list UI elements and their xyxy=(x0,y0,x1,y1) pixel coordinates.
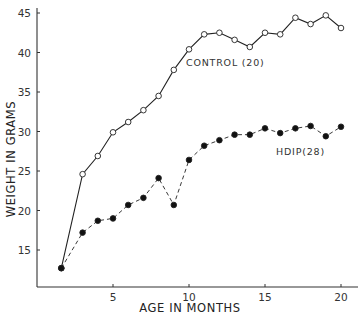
data-point-marker xyxy=(156,175,162,181)
data-point-marker xyxy=(186,47,192,53)
data-point-marker xyxy=(293,126,299,132)
x-tick-label: 20 xyxy=(334,291,347,303)
data-point-marker xyxy=(293,15,299,21)
series-line xyxy=(61,15,341,268)
data-point-marker xyxy=(125,119,131,125)
y-tick-label: 35 xyxy=(18,86,31,98)
data-point-marker xyxy=(141,195,147,201)
y-tick-label: 25 xyxy=(18,165,31,177)
data-point-marker xyxy=(323,13,329,19)
data-point-marker xyxy=(308,123,314,129)
x-axis-title: AGE IN MONTHS xyxy=(139,301,241,315)
data-point-marker xyxy=(262,126,268,132)
x-tick-label: 5 xyxy=(110,291,117,303)
data-point-marker xyxy=(277,130,283,136)
data-point-marker xyxy=(308,21,314,27)
data-point-marker xyxy=(232,132,238,138)
data-point-marker xyxy=(95,218,101,224)
series-layer xyxy=(59,13,344,271)
data-point-marker xyxy=(110,216,116,222)
data-point-marker xyxy=(186,157,192,163)
data-point-marker xyxy=(80,230,86,236)
control-series-label: CONTROL (20) xyxy=(186,57,265,68)
data-point-marker xyxy=(232,37,238,43)
y-axis-title: WEIGHT IN GRAMS xyxy=(4,101,18,217)
y-tick-label: 45 xyxy=(18,7,31,19)
data-point-marker xyxy=(338,25,344,31)
data-point-marker xyxy=(59,265,65,271)
data-point-marker xyxy=(80,171,86,177)
y-tick-label: 40 xyxy=(18,47,31,59)
data-point-marker xyxy=(125,202,131,208)
data-point-marker xyxy=(338,124,344,130)
hdip-series-label: HDIP(28) xyxy=(276,146,325,157)
data-point-marker xyxy=(247,132,253,138)
data-point-marker xyxy=(201,32,207,38)
data-point-marker xyxy=(323,133,329,139)
data-point-marker xyxy=(277,32,283,38)
control-series xyxy=(59,13,344,271)
data-point-marker xyxy=(171,202,177,208)
y-tick-label: 15 xyxy=(18,244,31,256)
data-point-marker xyxy=(217,137,223,143)
y-tick-label: 30 xyxy=(18,126,31,138)
data-point-marker xyxy=(171,67,177,73)
y-tick-label: 20 xyxy=(18,205,31,217)
data-point-marker xyxy=(95,153,101,159)
growth-chart: 15202530354045 5101520 WEIGHT IN GRAMS A… xyxy=(0,0,363,322)
data-point-marker xyxy=(110,129,116,135)
data-point-marker xyxy=(247,44,253,50)
x-tick-label: 15 xyxy=(258,291,271,303)
data-point-marker xyxy=(156,93,162,99)
data-point-marker xyxy=(217,30,223,36)
data-point-marker xyxy=(262,30,268,36)
data-point-marker xyxy=(201,143,207,149)
data-point-marker xyxy=(141,107,147,113)
